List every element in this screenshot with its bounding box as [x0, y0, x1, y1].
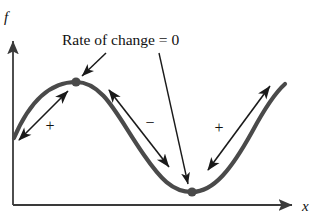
pointer-to-minimum-arrow — [159, 53, 188, 184]
slope-arrow-decreasing-middle — [109, 90, 169, 167]
rate-of-change-figure: f x + − + Rate of change = 0 — [0, 0, 319, 220]
y-axis-label: f — [4, 9, 10, 25]
rate-of-change-label: Rate of change = 0 — [62, 31, 179, 48]
pointer-to-maximum-arrow — [82, 53, 106, 76]
maximum-point — [71, 77, 80, 86]
sign-label-plus-left: + — [45, 117, 54, 134]
x-axis-label: x — [301, 198, 309, 214]
minimum-point — [187, 187, 196, 196]
sign-label-plus-right: + — [214, 119, 223, 136]
function-curve — [14, 82, 285, 192]
sign-label-minus-middle: − — [145, 114, 154, 131]
figure-canvas: f x + − + Rate of change = 0 — [0, 0, 319, 220]
